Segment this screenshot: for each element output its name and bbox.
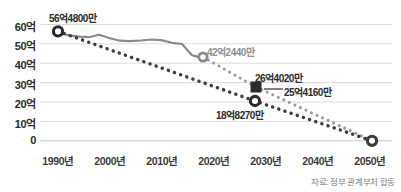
chart-container: 60억 50억 40억 30억 20억 10억 0 1990년 2000년 20… xyxy=(0,0,401,192)
y-axis-tick-4: 20억 xyxy=(0,95,36,111)
y-axis-tick-5: 10억 xyxy=(0,115,36,131)
x-axis-tick-1990: 1990년 xyxy=(28,153,88,168)
y-axis-tick-2: 40억 xyxy=(0,56,36,72)
x-axis-tick-2020: 2020년 xyxy=(184,153,244,168)
source-attribution: 자료: 정부 관계부처 합동 xyxy=(311,175,395,187)
annotation-2030-lower-value: 18억8270만 xyxy=(216,107,263,122)
y-axis-tick-6: 0 xyxy=(0,134,36,146)
y-axis-tick-3: 30억 xyxy=(0,76,36,92)
marker-2020 xyxy=(199,53,207,61)
x-axis-tick-2050: 2050년 xyxy=(340,153,400,168)
x-axis-tick-2030: 2030년 xyxy=(236,153,296,168)
annotation-2020-value: 42억2440만 xyxy=(207,44,254,59)
annotation-2030-alt-value: 25억4160만 xyxy=(284,84,331,99)
y-axis-tick-1: 50억 xyxy=(0,37,36,53)
x-axis-tick-2010: 2010년 xyxy=(132,153,192,168)
y-axis-tick-0: 60억 xyxy=(0,18,36,34)
marker-2030-lower xyxy=(250,96,259,105)
annotation-2030-upper-value: 26억4020만 xyxy=(255,70,302,85)
annotation-1990-value: 56억4800만 xyxy=(49,10,96,25)
x-axis-tick-2040: 2040년 xyxy=(288,153,348,168)
marker-1990 xyxy=(53,27,62,36)
gridlines xyxy=(40,25,392,141)
marker-2050 xyxy=(367,136,376,145)
x-axis-tick-2000: 2000년 xyxy=(80,153,140,168)
